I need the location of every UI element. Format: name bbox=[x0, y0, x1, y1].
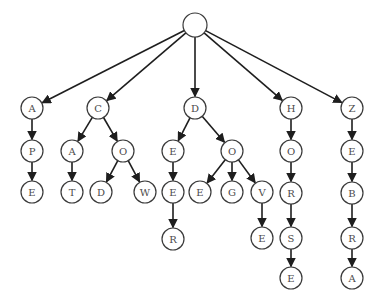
trie-node: R bbox=[162, 228, 184, 250]
edge-arrow bbox=[178, 118, 190, 141]
trie-node: R bbox=[341, 227, 363, 249]
node-label: E bbox=[287, 273, 294, 284]
trie-node: C bbox=[87, 97, 109, 119]
trie-node: O bbox=[112, 140, 134, 162]
trie-node: E bbox=[251, 227, 273, 249]
edge-arrow bbox=[207, 160, 225, 183]
node-circle bbox=[183, 13, 207, 37]
trie-node: D bbox=[90, 181, 112, 203]
node-label: P bbox=[29, 146, 36, 157]
trie-node: O bbox=[221, 140, 243, 162]
edge-arrow bbox=[104, 118, 118, 142]
edge-arrow bbox=[238, 160, 255, 183]
node-label: W bbox=[140, 187, 151, 198]
trie-node: V bbox=[251, 181, 273, 203]
trie-node: A bbox=[341, 267, 363, 289]
edge-arrow bbox=[107, 33, 186, 101]
node-label: V bbox=[257, 187, 266, 198]
node-label: D bbox=[97, 187, 105, 198]
node-label: T bbox=[69, 187, 76, 198]
trie-node: A bbox=[21, 97, 43, 119]
trie-node: E bbox=[21, 181, 43, 203]
trie-node: D bbox=[184, 97, 206, 119]
node-label: O bbox=[119, 146, 127, 157]
trie-node: T bbox=[61, 181, 83, 203]
node-label: E bbox=[169, 187, 176, 198]
node-label: D bbox=[191, 103, 199, 114]
trie-node: Z bbox=[341, 97, 363, 119]
edge-arrow bbox=[78, 117, 92, 141]
root-node bbox=[183, 13, 207, 37]
node-label: A bbox=[347, 273, 356, 284]
node-label: E bbox=[169, 146, 176, 157]
node-label: O bbox=[228, 146, 236, 157]
trie-node: H bbox=[280, 97, 302, 119]
trie-node: B bbox=[341, 182, 363, 204]
node-label: E bbox=[28, 187, 35, 198]
node-label: R bbox=[287, 188, 295, 199]
edge-arrow bbox=[202, 116, 224, 142]
node-label: E bbox=[348, 146, 355, 157]
trie-node: P bbox=[21, 140, 43, 162]
trie-node: E bbox=[162, 140, 184, 162]
node-label: H bbox=[287, 103, 296, 114]
node-label: E bbox=[258, 233, 265, 244]
node-label: S bbox=[288, 233, 295, 244]
edge-arrow bbox=[106, 161, 117, 182]
node-label: A bbox=[67, 146, 76, 157]
edge-arrow bbox=[206, 31, 342, 103]
trie-node: A bbox=[61, 140, 83, 162]
node-label: B bbox=[348, 188, 355, 199]
trie-node: E bbox=[162, 181, 184, 203]
trie-node: E bbox=[280, 267, 302, 289]
node-label: Z bbox=[349, 103, 356, 114]
node-label: R bbox=[169, 234, 177, 245]
trie-node: E bbox=[189, 181, 211, 203]
node-label: A bbox=[27, 103, 36, 114]
trie-node: E bbox=[341, 140, 363, 162]
trie-node: S bbox=[280, 227, 302, 249]
node-label: G bbox=[228, 187, 236, 198]
edge-arrow bbox=[128, 161, 139, 182]
edge-arrow bbox=[42, 30, 184, 102]
node-label: C bbox=[94, 103, 102, 114]
trie-node: O bbox=[280, 140, 302, 162]
nodes-layer: APECATODWDEEROEGVEHORSEZEBRA bbox=[21, 13, 363, 289]
trie-node: W bbox=[134, 181, 156, 203]
trie-node: G bbox=[221, 181, 243, 203]
node-label: O bbox=[287, 146, 295, 157]
node-label: R bbox=[348, 233, 356, 244]
edge-arrow bbox=[204, 33, 282, 101]
trie-node: R bbox=[280, 182, 302, 204]
node-label: E bbox=[196, 187, 203, 198]
trie-diagram: APECATODWDEEROEGVEHORSEZEBRA bbox=[0, 0, 386, 306]
